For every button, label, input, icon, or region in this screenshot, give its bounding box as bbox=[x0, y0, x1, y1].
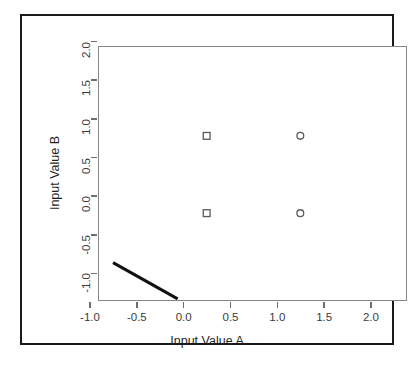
x-tick-label: 0.5 bbox=[223, 311, 239, 323]
y-tick-label: 0.5 bbox=[80, 158, 92, 174]
plot-area bbox=[98, 46, 407, 301]
x-tick-label: 1.5 bbox=[316, 311, 332, 323]
decision-boundary bbox=[113, 263, 178, 299]
x-tick-label: 0.0 bbox=[176, 311, 192, 323]
y-tick-label: 2.0 bbox=[80, 42, 92, 58]
x-tick-mark bbox=[230, 302, 232, 308]
x-tick-label: -0.5 bbox=[127, 311, 147, 323]
y-tick-label: 0.0 bbox=[80, 196, 92, 212]
y-tick-label: 1.5 bbox=[80, 80, 92, 96]
caption-artifact bbox=[0, 1, 412, 11]
data-point-circle bbox=[297, 210, 304, 217]
x-axis-title: Input Value A bbox=[22, 334, 392, 348]
plot-canvas bbox=[99, 47, 407, 301]
x-tick-mark bbox=[277, 302, 279, 308]
x-tick-mark bbox=[323, 302, 325, 308]
data-point-circle bbox=[297, 132, 304, 139]
y-axis-title: Input Value B bbox=[48, 136, 62, 210]
x-tick-mark bbox=[183, 302, 185, 308]
y-tick-label: -1.0 bbox=[80, 273, 92, 293]
x-tick-mark bbox=[136, 302, 138, 308]
y-tick-label: 1.0 bbox=[80, 119, 92, 135]
x-tick-mark bbox=[370, 302, 372, 308]
x-tick-mark bbox=[89, 302, 91, 308]
x-tick-label: -1.0 bbox=[80, 311, 100, 323]
figure-frame: -1.0-0.50.00.51.01.52.0-1.0-0.50.00.51.0… bbox=[20, 14, 394, 345]
data-point-square bbox=[203, 132, 210, 139]
x-tick-label: 2.0 bbox=[363, 311, 379, 323]
y-tick-label: -0.5 bbox=[80, 235, 92, 255]
x-tick-label: 1.0 bbox=[269, 311, 285, 323]
data-point-square bbox=[203, 210, 210, 217]
